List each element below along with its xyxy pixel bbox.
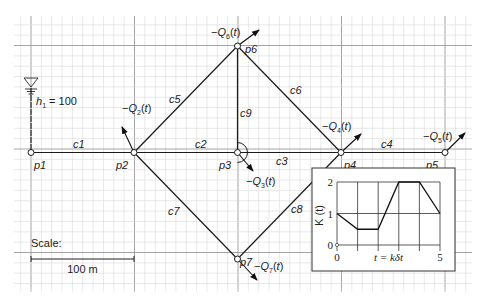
demand-label-Q2: −Q2(t) xyxy=(122,102,151,116)
pipe-label-c1: c1 xyxy=(73,138,85,150)
node-label-p3: p3 xyxy=(218,159,232,171)
scale-length-label: 100 m xyxy=(67,263,98,275)
y-tick-2: 2 xyxy=(328,176,334,188)
inset-k-chart: 01205t = kδtK (t) xyxy=(312,168,455,271)
demand-label-Q5: −Q5(t) xyxy=(423,130,452,144)
node-p4-icon xyxy=(338,150,344,156)
inset-y-label: K (t) xyxy=(313,205,325,226)
pipe-label-c8: c8 xyxy=(291,203,304,215)
node-label-p2: p2 xyxy=(115,159,128,171)
pipe-c6 xyxy=(238,46,342,153)
demand-arrow-Q4-icon xyxy=(341,134,361,153)
y-tick-1: 1 xyxy=(328,208,334,220)
node-p3-icon xyxy=(235,150,241,156)
pipe-label-c9: c9 xyxy=(240,107,252,119)
node-p2-icon xyxy=(131,150,137,156)
y-tick-0: 0 xyxy=(328,239,334,251)
x-tick-5: 5 xyxy=(437,251,443,263)
node-label-p6: p6 xyxy=(244,43,258,55)
node-p6-icon xyxy=(235,43,241,49)
node-p1-icon xyxy=(28,150,34,156)
pipe-label-c7: c7 xyxy=(168,205,181,217)
grid-fade xyxy=(0,286,486,304)
x-tick-0: 0 xyxy=(334,251,340,263)
scale-title: Scale: xyxy=(31,237,62,249)
pipe-network-diagram: h1 = 100 c1c2c3c4c5c6c7c8c9 −Q2(t)−Q3(t)… xyxy=(0,0,486,304)
demand-label-Q7: −Q7(t) xyxy=(254,260,283,274)
pipe-label-c2: c2 xyxy=(195,138,207,150)
pipe-c5 xyxy=(134,46,238,153)
pipe-label-c5: c5 xyxy=(169,93,182,105)
node-label-p1: p1 xyxy=(33,159,46,171)
demand-label-Q4: −Q4(t) xyxy=(322,120,351,134)
node-label-p7: p7 xyxy=(239,256,253,268)
demand-label-Q6: −Q6(t) xyxy=(211,26,240,40)
node-p5-icon xyxy=(442,150,448,156)
pipe-label-c6: c6 xyxy=(290,84,303,96)
inset-x-label: t = kδt xyxy=(374,251,404,263)
pipe-label-c4: c4 xyxy=(381,138,393,150)
pipe-label-c3: c3 xyxy=(276,155,289,167)
demand-label-Q3: −Q3(t) xyxy=(246,175,275,189)
reservoir-p1: h1 = 100 xyxy=(24,78,77,153)
